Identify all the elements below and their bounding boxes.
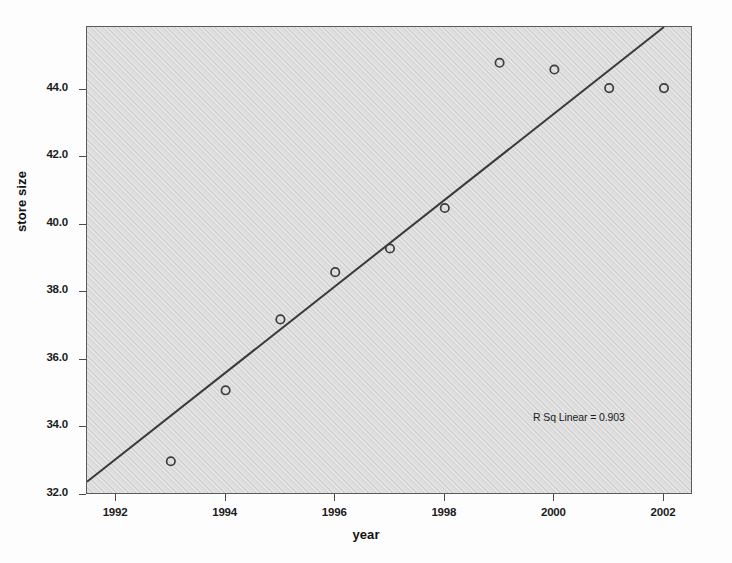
x-axis-tick-label: 1996	[304, 506, 364, 518]
data-point-marker	[167, 457, 175, 465]
data-point-markers	[167, 59, 669, 466]
y-axis-title: store size	[14, 171, 29, 232]
data-point-marker	[221, 386, 229, 394]
r-squared-annotation: R Sq Linear = 0.903	[533, 411, 625, 423]
data-point-marker	[441, 204, 449, 212]
x-axis-tick-label: 2002	[633, 506, 693, 518]
chart-figure: 32.034.036.038.040.042.044.0 19921994199…	[0, 0, 732, 563]
data-point-marker	[276, 315, 284, 323]
y-axis-tick-mark	[79, 156, 86, 157]
x-axis-tick-label: 1998	[414, 506, 474, 518]
y-axis-tick-label: 44.0	[22, 81, 68, 93]
x-axis-title: year	[0, 527, 732, 542]
y-axis-tick-label: 36.0	[22, 351, 68, 363]
x-axis-tick-mark	[444, 494, 445, 501]
x-axis-tick-mark	[553, 494, 554, 501]
data-point-marker	[331, 268, 339, 276]
x-axis-tick-mark	[225, 494, 226, 501]
plot-area	[86, 26, 692, 494]
y-axis-tick-label: 38.0	[22, 283, 68, 295]
y-axis-tick-label: 42.0	[22, 148, 68, 160]
y-axis-tick-mark	[79, 89, 86, 90]
x-axis-tick-label: 2000	[523, 506, 583, 518]
data-point-marker	[605, 84, 613, 92]
x-axis-tick-mark	[115, 494, 116, 501]
x-axis-tick-label: 1992	[85, 506, 145, 518]
data-point-marker	[495, 59, 503, 67]
y-axis-tick-mark	[79, 359, 86, 360]
data-point-marker	[386, 244, 394, 252]
data-point-marker	[660, 84, 668, 92]
y-axis-tick-mark	[79, 494, 86, 495]
y-axis-tick-mark	[79, 291, 86, 292]
data-point-marker	[550, 65, 558, 73]
y-axis-tick-mark	[79, 224, 86, 225]
y-axis-tick-label: 34.0	[22, 418, 68, 430]
y-axis-tick-label: 32.0	[22, 486, 68, 498]
y-axis-tick-mark	[79, 426, 86, 427]
x-axis-tick-mark	[334, 494, 335, 501]
x-axis-tick-mark	[663, 494, 664, 501]
x-axis-tick-label: 1994	[195, 506, 255, 518]
plot-canvas	[87, 27, 692, 494]
